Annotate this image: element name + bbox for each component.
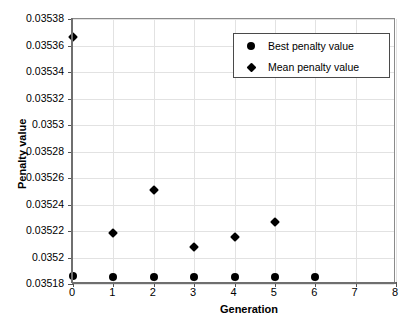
y-tick-label: 0.03528 (2, 145, 64, 157)
data-point-diamond (149, 185, 159, 195)
x-axis-title-text: Generation (220, 303, 278, 315)
x-tick-label: 7 (343, 286, 367, 298)
legend-label-mean: Mean penalty value (268, 61, 359, 73)
gridline-horizontal (73, 258, 394, 259)
x-tick-label: 4 (222, 286, 246, 298)
x-tick-label: 0 (60, 286, 84, 298)
gridline-vertical (154, 19, 155, 282)
x-axis-title: Generation (0, 303, 414, 315)
y-axis-title: Penalty value (16, 119, 28, 189)
y-tick-label: 0.0353 (2, 118, 64, 130)
gridline-vertical (396, 19, 397, 282)
legend-item-best: Best penalty value (234, 35, 389, 57)
y-tick-label: 0.03524 (2, 198, 64, 210)
gridline-horizontal (73, 99, 394, 100)
x-tick-label: 1 (100, 286, 124, 298)
data-point-circle (150, 273, 158, 281)
y-tick-label: 0.0352 (2, 251, 64, 263)
data-point-circle (311, 273, 319, 281)
x-tick-label: 3 (181, 286, 205, 298)
legend-item-mean: Mean penalty value (234, 56, 389, 78)
data-point-circle (231, 273, 239, 281)
y-tick-label: 0.03532 (2, 92, 64, 104)
gridline-horizontal (73, 205, 394, 206)
y-tick-label: 0.03518 (2, 277, 64, 289)
circle-marker-icon (234, 42, 268, 50)
x-tick-label: 8 (383, 286, 407, 298)
y-tick-label: 0.03526 (2, 171, 64, 183)
gridline-horizontal (73, 152, 394, 153)
data-point-diamond (270, 217, 280, 227)
gridline-horizontal (73, 284, 394, 285)
gridline-horizontal (73, 178, 394, 179)
x-axis-line (72, 282, 396, 284)
data-point-diamond (189, 242, 199, 252)
x-tick-label: 5 (262, 286, 286, 298)
x-tick-label: 2 (141, 286, 165, 298)
chart-legend: Best penalty value Mean penalty value (233, 33, 390, 78)
data-point-diamond (68, 32, 78, 42)
data-point-diamond (230, 232, 240, 242)
legend-label-best: Best penalty value (268, 40, 354, 52)
x-tick-label: 6 (302, 286, 326, 298)
diamond-marker-icon (234, 64, 268, 71)
y-tick-label: 0.03522 (2, 224, 64, 236)
y-tick-label: 0.03534 (2, 65, 64, 77)
data-point-circle (109, 273, 117, 281)
gridline-horizontal (73, 19, 394, 20)
gridline-vertical (113, 19, 114, 282)
penalty-value-scatter-chart: 0.035180.03520.035220.035240.035260.0352… (0, 0, 414, 329)
y-axis-line (71, 18, 73, 283)
data-point-diamond (108, 228, 118, 238)
data-point-circle (190, 273, 198, 281)
y-tick-label: 0.03536 (2, 39, 64, 51)
gridline-horizontal (73, 125, 394, 126)
y-tick-label: 0.03538 (2, 12, 64, 24)
data-point-circle (271, 273, 279, 281)
